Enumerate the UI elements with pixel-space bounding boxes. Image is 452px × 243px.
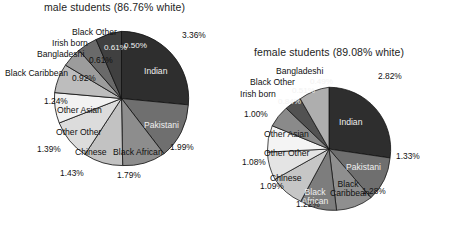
- female-label-other-other: Other Other: [264, 149, 309, 158]
- female-students-chart: female students (89.08% white): [226, 40, 452, 243]
- female-value-pakistani: 1.33%: [396, 152, 420, 160]
- male-label-pakistani: Pakistani: [144, 121, 179, 130]
- female-value-chinese: 1.09%: [260, 182, 284, 190]
- male-value-black-other: 0.50%: [124, 42, 147, 50]
- female-label-pakistani: Pakistani: [346, 163, 381, 172]
- male-value-indian: 3.36%: [182, 31, 206, 39]
- male-label-black-caribbean: Black Caribbean: [5, 69, 68, 78]
- female-value-other-asian: 1.00%: [244, 110, 268, 118]
- male-label-indian: Indian: [144, 67, 167, 76]
- female-label-irish-born: Irish born: [240, 90, 276, 99]
- male-value-black-african: 1.79%: [117, 171, 141, 179]
- male-label-irish-born: Irish born: [52, 39, 88, 48]
- female-value-other-other: 1.08%: [242, 158, 266, 166]
- female-chart-title: female students (89.08% white): [254, 46, 404, 58]
- female-value-bangladeshi: 0.49%: [310, 78, 333, 86]
- male-label-black-african: Black African: [113, 148, 163, 157]
- female-value-indian: 2.82%: [378, 72, 402, 80]
- male-label-bangladeshi: Bangladeshi: [37, 50, 84, 59]
- female-label-black-caribbean: Black Caribbean: [330, 180, 366, 198]
- male-label-black-other: Black Other: [72, 28, 117, 37]
- female-label-black-other: Black Other: [250, 78, 295, 87]
- male-chart-title: male students (86.76% white): [44, 1, 185, 13]
- female-label-bangladeshi: Bangladeshi: [276, 67, 323, 76]
- male-students-chart: male students (86.76% white): [0, 0, 232, 243]
- male-label-other-other: Other Other: [56, 128, 101, 137]
- male-label-chinese: Chinese: [75, 148, 107, 157]
- female-value-black-other: 0.51%: [292, 87, 315, 95]
- male-value-other-other: 1.39%: [37, 145, 61, 153]
- male-value-chinese: 1.43%: [60, 169, 84, 177]
- female-label-indian: Indian: [339, 118, 362, 127]
- female-label-black-african: Black African: [300, 188, 330, 206]
- male-label-other-asian: Other Asian: [57, 106, 102, 115]
- female-label-chinese: Chinese: [270, 174, 302, 183]
- male-value-black-caribbean: 0.92%: [72, 74, 96, 82]
- female-label-other-asian: Other Asian: [264, 130, 309, 139]
- female-value-irish-born: 0.84%: [278, 98, 301, 106]
- male-value-bangladeshi: 0.61%: [89, 56, 113, 64]
- male-value-pakistani: 1.99%: [170, 143, 194, 151]
